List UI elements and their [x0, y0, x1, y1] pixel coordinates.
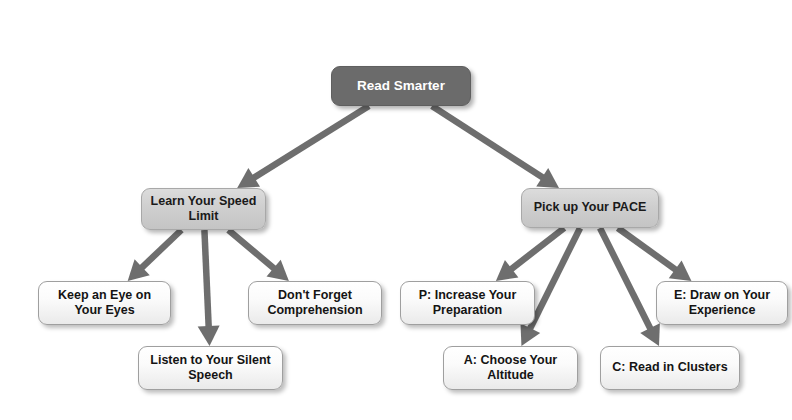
- edge-speed-limit-to-dont-forget-comprehension: [228, 230, 288, 281]
- edge-speed-limit-to-keep-an-eye: [128, 230, 182, 281]
- arrow-shaft: [228, 230, 276, 270]
- arrow-shaft: [140, 230, 181, 269]
- node-label: Keep an Eye on Your Eyes: [52, 288, 157, 319]
- node-leaf-dont-forget-comprehension[interactable]: Don't Forget Comprehension: [248, 281, 382, 325]
- edge-pace-to-e-experience: [618, 228, 692, 281]
- arrow-shaft: [618, 228, 678, 271]
- arrow-head: [198, 326, 220, 346]
- edge-pace-to-c-clusters: [600, 228, 660, 346]
- arrow-shaft: [432, 106, 545, 179]
- node-root[interactable]: Read Smarter: [331, 66, 471, 106]
- edge-pace-to-p-preparation: [496, 228, 564, 281]
- node-label: E: Draw on Your Experience: [668, 288, 776, 319]
- arrow-shaft: [509, 228, 564, 271]
- node-leaf-listen-silent-speech[interactable]: Listen to Your Silent Speech: [138, 346, 283, 390]
- node-branch-pace[interactable]: Pick up Your PACE: [521, 188, 659, 228]
- node-leaf-p-preparation[interactable]: P: Increase Your Preparation: [400, 281, 535, 325]
- node-label: Read Smarter: [351, 78, 451, 94]
- node-label: Listen to Your Silent Speech: [144, 353, 276, 384]
- arrow-shaft: [529, 228, 580, 331]
- node-label: Pick up Your PACE: [528, 200, 653, 215]
- node-label: Don't Forget Comprehension: [261, 288, 368, 319]
- arrow-shaft: [252, 106, 369, 179]
- flowchart-diagram: Read SmarterLearn Your Speed LimitPick u…: [0, 0, 792, 420]
- node-leaf-a-altitude[interactable]: A: Choose Your Altitude: [443, 346, 578, 390]
- edge-root-to-speed-limit: [237, 106, 369, 188]
- node-label: Learn Your Speed Limit: [145, 194, 263, 225]
- node-label: C: Read in Clusters: [606, 360, 733, 375]
- node-branch-speed-limit[interactable]: Learn Your Speed Limit: [141, 188, 266, 230]
- edge-root-to-pace: [432, 106, 559, 188]
- node-label: P: Increase Your Preparation: [413, 288, 523, 319]
- node-leaf-keep-an-eye[interactable]: Keep an Eye on Your Eyes: [38, 281, 171, 325]
- node-leaf-e-experience[interactable]: E: Draw on Your Experience: [656, 281, 788, 325]
- node-label: A: Choose Your Altitude: [458, 353, 563, 384]
- edge-speed-limit-to-listen-silent-speech: [198, 230, 220, 346]
- arrow-shaft: [204, 230, 208, 329]
- node-leaf-c-clusters[interactable]: C: Read in Clusters: [600, 346, 740, 390]
